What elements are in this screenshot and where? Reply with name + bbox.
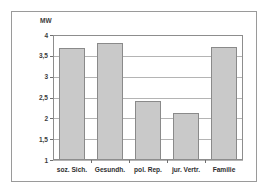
- ytick-mark-1: [50, 160, 53, 161]
- bar-chart: MW 4 3,5 3 2,5 2 1,5 1 soz. Sich: [0, 0, 275, 195]
- category-label-pol-rep: pol. Rep.: [129, 166, 167, 173]
- ytick-label-1: 1: [24, 157, 48, 164]
- ytick-label-1-5: 1,5: [24, 136, 48, 143]
- chart-page: MW 4 3,5 3 2,5 2 1,5 1 soz. Sich: [0, 0, 275, 195]
- xtick-mark-4: [205, 160, 206, 163]
- gridline-1: [53, 160, 243, 161]
- category-label-familie: Familie: [205, 166, 243, 173]
- xtick-mark-2: [129, 160, 130, 163]
- ytick-label-2: 2: [24, 115, 48, 122]
- ytick-label-3-5: 3,5: [24, 52, 48, 59]
- y-axis-title: MW: [40, 17, 52, 24]
- ytick-label-2-5: 2,5: [24, 94, 48, 101]
- ytick-label-4: 4: [24, 32, 48, 39]
- category-label-gesundh: Gesundh.: [91, 166, 129, 173]
- xtick-mark-1: [91, 160, 92, 163]
- category-label-jur-vertr: jur. Vertr.: [167, 166, 205, 173]
- ytick-label-3: 3: [24, 73, 48, 80]
- plot-frame: [53, 35, 243, 160]
- xtick-mark-3: [167, 160, 168, 163]
- category-label-soz-sich: soz. Sich.: [53, 166, 91, 173]
